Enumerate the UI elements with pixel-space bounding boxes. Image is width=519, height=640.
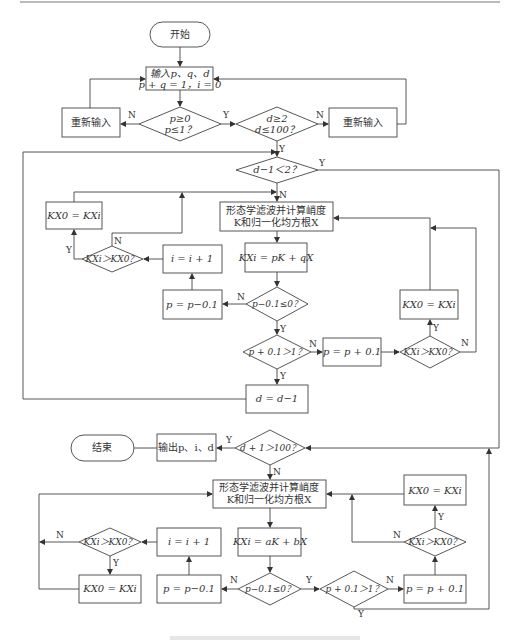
morph1-label-2: K和归一化均方根X: [234, 216, 319, 228]
cmp-right-top-label: KXi＞KX0？: [403, 347, 457, 357]
edge-label-n: N: [128, 110, 136, 120]
reinput-right-label: 重新输入: [343, 116, 383, 128]
caption-fragment: [170, 636, 360, 640]
assign-right-top-label: KX0 = KXi: [401, 299, 455, 310]
edge-label-y: Y: [279, 371, 287, 381]
edge-label-y: Y: [222, 110, 230, 120]
kx-pq-label: KXi = pK + qX: [238, 252, 315, 263]
i-plus-bot-label: i = i + 1: [168, 536, 210, 547]
p-minus-top-label: p = p−0.1: [166, 299, 218, 310]
p-minus-bot-label: p = p−0.1: [163, 583, 215, 594]
edge-label-y: Y: [112, 558, 120, 568]
assign-right-bot-label: KX0 = KXi: [407, 485, 461, 496]
cmp-left-bot-label: KXi＞KX0？: [83, 537, 137, 547]
end-label: 结束: [92, 441, 112, 453]
assign-left-bot-label: KX0 = KXi: [82, 583, 136, 594]
flowchart: 开始 输入p、q、d p + q = 1，i = 0 重新输入 p≥0 p≤1？…: [0, 0, 519, 640]
edge-label-y: Y: [318, 158, 326, 168]
edge-label-y: Y: [225, 435, 233, 445]
edge-label-y: Y: [279, 324, 287, 334]
edge-label-y: Y: [278, 144, 286, 154]
edge-label-n: N: [56, 530, 64, 540]
edge-label-n: N: [309, 339, 317, 349]
cond-p-label-1: p≥0: [169, 113, 191, 124]
edge-label-n: N: [393, 530, 401, 540]
input-label-1: 输入p、q、d: [150, 68, 209, 79]
cmp-left-top-label: KXi＞KX0？: [85, 254, 139, 264]
cond-p01-up-bot-label: p + 0.1＞1？: [325, 584, 382, 594]
edge-label-n: N: [230, 575, 238, 585]
cond-p01-bot-label: p−0.1≤0？: [245, 584, 295, 594]
edge-label-y: Y: [437, 512, 445, 522]
morph1-label-1: 形态学滤波并计算峭度: [226, 204, 326, 216]
kx-ab-label: KXi = aK + bX: [232, 536, 308, 547]
edge-label-y: Y: [305, 575, 313, 585]
edge-label-n: N: [279, 190, 287, 200]
edge-label-n: N: [114, 236, 122, 246]
cond-p01-up-top-label: p + 0.1＞1？: [248, 347, 305, 357]
edge-label-y: Y: [65, 245, 73, 255]
cond-d-label-2: d≤100？: [255, 124, 299, 135]
assign-left-top-label: KX0 = KXi: [46, 210, 100, 221]
edge-label-n: N: [386, 575, 394, 585]
edge-label-n: N: [316, 110, 324, 120]
edge-label-n: N: [273, 467, 281, 477]
input-label-2: p + q = 1，i = 0: [139, 79, 223, 90]
i-plus-top-label: i = i + 1: [171, 253, 213, 264]
cond-p01-top-label: p−0.1≤0？: [252, 299, 302, 309]
cond-d1-label: d−1＜2？: [253, 164, 301, 175]
edge-label-y: Y: [357, 609, 365, 619]
p-plus-top-label: p = p + 0.1: [323, 346, 381, 357]
d-minus-label: d = d−1: [256, 393, 298, 404]
output-label: 输出p、i、d: [158, 441, 215, 453]
reinput-left-label: 重新输入: [71, 116, 111, 128]
start-label: 开始: [170, 28, 190, 40]
cond-p-label-2: p≤1？: [164, 124, 195, 135]
morph2-label-2: K和归一化均方根X: [227, 493, 312, 505]
edge-label-n: N: [461, 338, 469, 348]
cmp-right-bot-label: KXi＞KX0？: [408, 537, 462, 547]
morph2-label-1: 形态学滤波并计算峭度: [219, 481, 319, 493]
edge-label-y: Y: [432, 323, 440, 333]
cond-d-label-1: d≥2: [266, 113, 287, 124]
cond-d100-label: d + 1＞100？: [240, 443, 300, 453]
p-plus-bot-label: p = p + 0.1: [406, 583, 464, 594]
edge-label-n: N: [237, 292, 245, 302]
